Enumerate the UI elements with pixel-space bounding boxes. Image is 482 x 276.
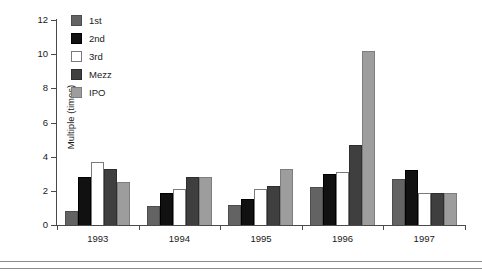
x-axis-label: 1997 bbox=[383, 233, 465, 244]
bar bbox=[173, 189, 186, 225]
y-axis-tick-label: 2 bbox=[0, 186, 48, 196]
legend-item: 1st bbox=[71, 15, 112, 26]
bar bbox=[444, 193, 457, 225]
bar bbox=[147, 206, 160, 225]
bar bbox=[405, 170, 418, 225]
bar bbox=[392, 179, 405, 225]
legend-label: 1st bbox=[89, 15, 102, 26]
y-axis-tick bbox=[51, 54, 56, 55]
bar-group bbox=[302, 20, 384, 225]
bar bbox=[323, 174, 336, 225]
y-axis-tick-label: 4 bbox=[0, 152, 48, 162]
bar-groups bbox=[57, 20, 465, 225]
bar-group bbox=[383, 20, 465, 225]
x-axis-tick bbox=[139, 225, 140, 230]
bar bbox=[91, 162, 104, 225]
bar-chart: 024681012 Multiple (times) 1993199419951… bbox=[0, 0, 482, 276]
bar bbox=[160, 193, 173, 225]
y-axis-tick bbox=[51, 123, 56, 124]
footer-rule-top bbox=[0, 261, 482, 262]
bar bbox=[362, 51, 375, 225]
legend-item: 3rd bbox=[71, 51, 112, 62]
bar bbox=[241, 199, 254, 225]
bar bbox=[78, 177, 91, 225]
x-axis-label: 1996 bbox=[302, 233, 384, 244]
footer-rule-bottom bbox=[0, 268, 482, 269]
y-axis-tick-label: 6 bbox=[0, 118, 48, 128]
legend-item: IPO bbox=[71, 87, 112, 98]
bar bbox=[228, 205, 241, 226]
y-axis-tick-label: 0 bbox=[0, 220, 48, 230]
legend-item: 2nd bbox=[71, 33, 112, 44]
bar bbox=[431, 193, 444, 225]
legend-swatch bbox=[71, 51, 82, 62]
legend-label: 2nd bbox=[89, 33, 105, 44]
y-axis-tick bbox=[51, 157, 56, 158]
y-axis-tick bbox=[51, 191, 56, 192]
x-axis-tick bbox=[302, 225, 303, 230]
legend-label: IPO bbox=[89, 87, 105, 98]
bar bbox=[336, 172, 349, 225]
x-axis-label: 1993 bbox=[57, 233, 139, 244]
bar bbox=[65, 211, 78, 225]
bar bbox=[117, 182, 130, 225]
x-axis-tick bbox=[383, 225, 384, 230]
bar-group bbox=[139, 20, 221, 225]
y-axis-tick bbox=[51, 20, 56, 21]
x-axis-tick bbox=[220, 225, 221, 230]
legend-label: Mezz bbox=[89, 69, 112, 80]
x-axis-tick bbox=[465, 225, 466, 230]
legend-item: Mezz bbox=[71, 69, 112, 80]
x-axis-label: 1994 bbox=[139, 233, 221, 244]
y-axis-tick bbox=[51, 225, 56, 226]
legend: 1st2nd3rdMezzIPO bbox=[71, 15, 112, 98]
bar bbox=[310, 187, 323, 225]
y-axis-tick-label: 8 bbox=[0, 83, 48, 93]
legend-swatch bbox=[71, 15, 82, 26]
x-axis-line bbox=[56, 225, 465, 226]
bar bbox=[267, 186, 280, 225]
bar bbox=[280, 169, 293, 225]
bar bbox=[349, 145, 362, 225]
legend-swatch bbox=[71, 33, 82, 44]
bar bbox=[186, 177, 199, 225]
bar bbox=[254, 189, 267, 225]
bar-group bbox=[220, 20, 302, 225]
y-axis-tick bbox=[51, 88, 56, 89]
legend-label: 3rd bbox=[89, 51, 103, 62]
legend-swatch bbox=[71, 87, 82, 98]
y-axis-tick-label: 10 bbox=[0, 49, 48, 59]
bar bbox=[199, 177, 212, 225]
x-axis-labels: 19931994199519961997 bbox=[57, 233, 465, 244]
x-axis-label: 1995 bbox=[220, 233, 302, 244]
legend-swatch bbox=[71, 69, 82, 80]
bar bbox=[418, 193, 431, 225]
y-axis-tick-label: 12 bbox=[0, 15, 48, 25]
x-axis-tick bbox=[57, 225, 58, 230]
bar bbox=[104, 169, 117, 225]
